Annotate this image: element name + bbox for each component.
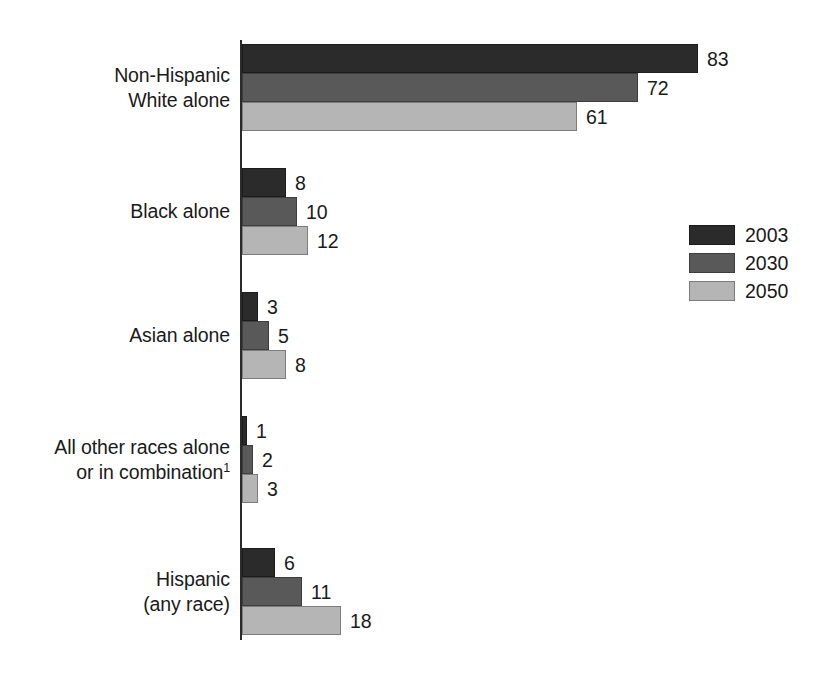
legend-swatch-2050 <box>689 281 735 301</box>
bar-2030-5 <box>242 577 302 606</box>
legend-label: 2050 <box>745 279 788 303</box>
category-label: Hispanic(any race) <box>0 567 230 617</box>
category-label: Black alone <box>0 199 230 224</box>
bar-value-label: 72 <box>647 73 669 102</box>
bar-value-label: 1 <box>256 416 267 445</box>
bar-value-label: 11 <box>311 577 331 606</box>
bar-chart: Non-HispanicWhite alone837261Black alone… <box>0 0 824 682</box>
bar-2050-2 <box>242 226 308 255</box>
bar-2003-1 <box>242 44 698 73</box>
bar-2050-5 <box>242 606 341 635</box>
bar-value-label: 8 <box>295 350 306 379</box>
bar-2030-3 <box>242 321 269 350</box>
bar-value-label: 6 <box>284 548 295 577</box>
category-label: All other races aloneor in combination1 <box>0 435 230 485</box>
legend-label: 2003 <box>745 223 788 247</box>
bar-value-label: 5 <box>278 321 289 350</box>
category-label: Asian alone <box>0 323 230 348</box>
bar-value-label: 8 <box>295 168 306 197</box>
bar-value-label: 3 <box>267 292 278 321</box>
bar-2003-2 <box>242 168 286 197</box>
bar-2030-4 <box>242 445 253 474</box>
bar-2050-1 <box>242 102 577 131</box>
bar-value-label: 2 <box>262 445 273 474</box>
bar-value-label: 18 <box>350 606 372 635</box>
legend-swatch-2003 <box>689 225 735 245</box>
bar-2030-1 <box>242 73 638 102</box>
bar-value-label: 83 <box>707 44 729 73</box>
legend-swatch-2030 <box>689 253 735 273</box>
bar-value-label: 61 <box>586 102 608 131</box>
bar-2003-3 <box>242 292 258 321</box>
legend-label: 2030 <box>745 251 788 275</box>
footnote-marker: 1 <box>223 460 230 474</box>
bar-value-label: 3 <box>267 474 278 503</box>
bar-2050-4 <box>242 474 258 503</box>
category-label: Non-HispanicWhite alone <box>0 63 230 113</box>
bar-2003-4 <box>242 416 247 445</box>
bar-value-label: 10 <box>306 197 328 226</box>
bar-2030-2 <box>242 197 297 226</box>
bar-value-label: 12 <box>317 226 339 255</box>
bar-2003-5 <box>242 548 275 577</box>
bar-2050-3 <box>242 350 286 379</box>
